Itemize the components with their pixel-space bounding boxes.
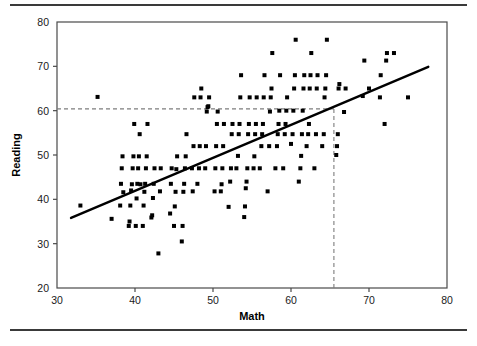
scatter-point (198, 144, 202, 148)
x-tick-label: 70 (363, 294, 375, 306)
scatter-point (184, 132, 188, 136)
scatter-point (243, 204, 247, 208)
scatter-point (78, 204, 82, 208)
y-tick-label: 60 (37, 105, 49, 117)
scatter-point (289, 142, 293, 146)
tick-labels: 30405060708020304050607080 (37, 16, 453, 306)
scatter-point (182, 182, 186, 186)
scatter-point (245, 180, 249, 184)
scatter-point (293, 73, 297, 77)
scatter-point (283, 132, 287, 136)
scatter-point (378, 95, 382, 99)
scatter-point (406, 95, 410, 99)
scatter-point (261, 122, 265, 126)
scatter-point (253, 132, 257, 136)
scatter-point (299, 154, 303, 158)
scatter-point (336, 132, 340, 136)
scatter-point (145, 122, 149, 126)
x-tick-label: 80 (441, 294, 453, 306)
scatter-point (121, 190, 125, 194)
scatter-point (150, 213, 154, 217)
scatter-point (266, 189, 270, 193)
scatter-point (221, 144, 225, 148)
scatter-point (135, 196, 139, 200)
y-tick-label: 50 (37, 149, 49, 161)
scatter-point (258, 166, 262, 170)
scatter-point (300, 132, 304, 136)
scatter-point (315, 87, 319, 91)
scatter-point (181, 224, 185, 228)
scatter-point (170, 166, 174, 170)
scatter-point (199, 95, 203, 99)
scatter-point (134, 224, 138, 228)
scatter-point (307, 122, 311, 126)
scatter-point (145, 154, 149, 158)
scatter-point (173, 204, 177, 208)
scatter-point (277, 122, 281, 126)
scatter-point (174, 167, 178, 171)
scatter-point (367, 87, 371, 91)
y-tick-label: 20 (37, 282, 49, 294)
scatter-point (259, 144, 263, 148)
scatter-point (172, 224, 176, 228)
scatter-point (337, 87, 341, 91)
scatter-point (320, 144, 324, 148)
scatter-point (268, 110, 272, 114)
scatter-point (237, 132, 241, 136)
scatter-point (181, 190, 185, 194)
scatter-point (136, 166, 140, 170)
scatter-point (383, 122, 387, 126)
axis-ticks (53, 66, 369, 292)
scatter-point (306, 132, 310, 136)
scatter-point (245, 166, 249, 170)
scatter-point (325, 38, 329, 42)
trend-line (71, 67, 428, 218)
scatter-point (230, 132, 234, 136)
scatter-point (138, 132, 142, 136)
x-axis-label: Math (239, 310, 265, 322)
scatter-point (344, 87, 348, 91)
scatter-point (175, 154, 179, 158)
data-points (78, 38, 410, 256)
scatter-point (385, 51, 389, 55)
scatter-point (244, 186, 248, 190)
scatter-point (275, 144, 279, 148)
scatter-point (144, 166, 148, 170)
scatter-point (127, 224, 131, 228)
scatter-point (184, 154, 188, 158)
scatter-point (236, 154, 240, 158)
y-tick-label: 40 (37, 193, 49, 205)
scatter-point (195, 182, 199, 186)
scatter-point (216, 110, 220, 114)
scatter-point (174, 190, 178, 194)
scatter-point (323, 95, 327, 99)
scatter-point (213, 189, 217, 193)
scatter-point (334, 153, 338, 157)
scatter-point (119, 182, 123, 186)
scatter-point (238, 95, 242, 99)
scatter-plot: 30405060708020304050607080 Math Reading (0, 0, 477, 346)
scatter-point (234, 166, 238, 170)
scatter-point (392, 51, 396, 55)
scatter-point (305, 144, 309, 148)
scatter-point (118, 204, 122, 208)
scatter-point (192, 95, 196, 99)
scatter-point (215, 122, 219, 126)
scatter-point (120, 166, 124, 170)
scatter-point (337, 82, 341, 86)
scatter-point (322, 132, 326, 136)
scatter-point (316, 73, 320, 77)
plot-border (57, 22, 447, 288)
scatter-point (309, 73, 313, 77)
scatter-point (199, 87, 203, 91)
scatter-point (269, 95, 273, 99)
figure-container: 30405060708020304050607080 Math Reading (0, 0, 477, 346)
scatter-point (285, 95, 289, 99)
scatter-point (309, 51, 313, 55)
x-tick-label: 30 (51, 294, 63, 306)
scatter-point (242, 215, 246, 219)
scatter-point (169, 182, 173, 186)
y-tick-label: 30 (37, 238, 49, 250)
scatter-point (205, 110, 209, 114)
scatter-point (207, 95, 211, 99)
